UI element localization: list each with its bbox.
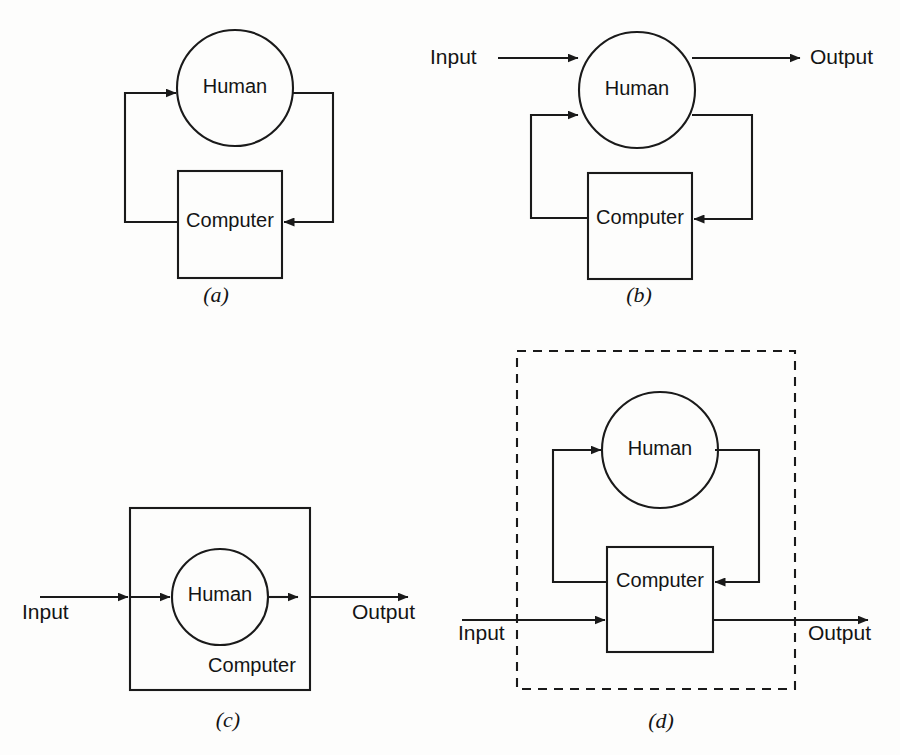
panel-b-computer-label: Computer	[596, 206, 684, 228]
panel-c-computer-label: Computer	[208, 654, 296, 676]
panel-a-human-label: Human	[203, 75, 267, 97]
panel-b: Input Output Human Computer (b)	[430, 32, 873, 307]
panel-d-human-label: Human	[628, 437, 692, 459]
panel-c-input-label: Input	[22, 600, 69, 623]
panel-d-output-label: Output	[808, 621, 871, 644]
figure-container: Human Computer (a) Input Output Human Co…	[0, 0, 900, 755]
panel-a: Human Computer (a)	[125, 30, 333, 307]
panel-c-human-label: Human	[188, 583, 252, 605]
panel-d-flow-computer-to-human	[553, 450, 607, 582]
panel-d-input-label: Input	[458, 621, 505, 644]
panel-c-output-label: Output	[352, 600, 415, 623]
panel-b-flow-human-to-computer	[692, 115, 752, 219]
panel-a-computer-label: Computer	[186, 209, 274, 231]
panel-b-input-label: Input	[430, 45, 477, 68]
panel-d-system-boundary	[517, 351, 795, 689]
panel-b-output-label: Output	[810, 45, 873, 68]
panel-d-caption: (d)	[648, 708, 674, 733]
panel-b-caption: (b)	[626, 282, 652, 307]
panel-b-human-label: Human	[605, 77, 669, 99]
panel-a-flow-human-to-computer	[284, 93, 333, 222]
panel-a-caption: (a)	[203, 282, 229, 307]
diagram-canvas: Human Computer (a) Input Output Human Co…	[0, 0, 900, 755]
panel-c-caption: (c)	[216, 707, 240, 732]
panel-d-flow-human-to-computer	[715, 450, 759, 582]
panel-d-computer-box	[607, 547, 713, 652]
panel-a-flow-computer-to-human	[125, 93, 178, 222]
panel-b-flow-computer-to-human	[531, 115, 588, 218]
panel-d-computer-label: Computer	[616, 569, 704, 591]
panel-d: Input Output Human Computer (d)	[458, 351, 871, 733]
panel-c: Input Output Human Computer (c)	[22, 508, 415, 732]
